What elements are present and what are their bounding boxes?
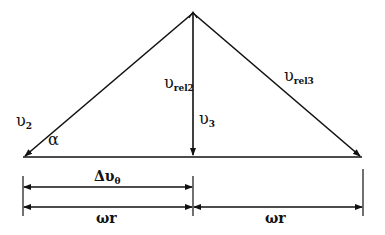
label-delta-v-theta: Δυθ xyxy=(94,169,121,186)
diagram-lines xyxy=(0,0,385,235)
label-v3: υ3 xyxy=(199,111,215,129)
label-omega-r-left: ωr xyxy=(96,211,117,225)
label-v-rel3: υrel3 xyxy=(284,68,314,86)
label-v2: υ2 xyxy=(16,113,32,131)
label-v-rel2: υrel2 xyxy=(164,75,194,93)
label-alpha: α xyxy=(48,132,59,148)
label-omega-r-right: ωr xyxy=(265,211,286,225)
velocity-triangle-diagram: υ2 α υrel2 υ3 υrel3 Δυθ ωr ωr xyxy=(0,0,385,235)
v-rel3-vector xyxy=(193,13,360,156)
